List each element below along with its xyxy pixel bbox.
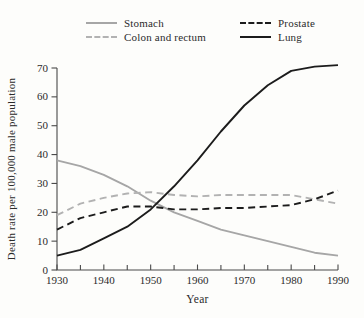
legend-item-prostate: Prostate [240,16,315,30]
y-tick-label: 40 [37,148,49,160]
legend-label-lung: Lung [278,31,302,43]
series-lung [57,65,338,256]
x-axis-title: Year [186,293,208,305]
legend-label-prostate: Prostate [278,17,315,29]
x-tick-label: 1990 [327,274,350,286]
legend-item-lung: Lung [240,30,302,44]
chart-canvas: 0102030405060701930194019501960197019801… [0,0,364,318]
legend-item-stomach: Stomach [86,16,164,30]
y-tick-label: 10 [37,235,49,247]
lung-line-swatch [240,36,271,38]
x-tick-label: 1940 [93,274,116,286]
y-tick-label: 30 [37,177,49,189]
x-tick-label: 1950 [140,274,163,286]
cancer-death-rate-figure: 0102030405060701930194019501960197019801… [0,0,364,318]
x-tick-label: 1960 [187,274,210,286]
x-tick-label: 1980 [280,274,303,286]
x-tick-label: 1930 [46,274,69,286]
stomach-line-swatch [86,22,117,24]
y-tick-label: 20 [37,206,49,218]
x-tick-label: 1970 [233,274,256,286]
y-tick-label: 60 [37,90,49,102]
legend-label-stomach: Stomach [124,17,164,29]
legend-item-colon-and-rectum: Colon and rectum [86,30,206,44]
y-tick-label: 70 [37,62,49,74]
y-tick-label: 50 [37,119,49,131]
y-axis-title: Death rate per 100,000 male population [5,78,17,261]
prostate-line-swatch [240,22,271,24]
legend-label-colon-and-rectum: Colon and rectum [124,31,206,43]
colon-line-swatch [86,36,117,38]
